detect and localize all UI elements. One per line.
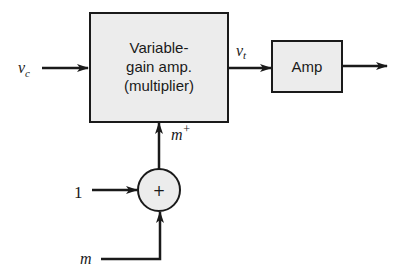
svg-text:m+: m+	[171, 122, 191, 143]
variable-gain-amp-block: Variable- gain amp. (multiplier)	[90, 13, 228, 122]
one-label: 1	[74, 183, 83, 202]
svg-text:vt: vt	[236, 42, 247, 61]
m-plus-label: m+	[171, 122, 191, 143]
plus-icon: +	[153, 182, 166, 200]
svg-text:gain amp.: gain amp.	[126, 58, 192, 75]
svg-text:vc: vc	[18, 59, 30, 79]
svg-text:Variable-: Variable-	[130, 39, 189, 56]
amp-block: Amp	[272, 41, 342, 92]
m-label: m	[80, 250, 92, 267]
m-arrow	[101, 212, 160, 259]
svg-text:(multiplier): (multiplier)	[124, 77, 194, 94]
block-diagram: vc Variable- gain amp. (multiplier) vt A…	[0, 0, 400, 279]
svg-text:Amp: Amp	[292, 58, 323, 75]
summing-junction: +	[138, 169, 180, 211]
input-vc-label: vc	[18, 59, 30, 79]
vt-label: vt	[236, 42, 247, 61]
